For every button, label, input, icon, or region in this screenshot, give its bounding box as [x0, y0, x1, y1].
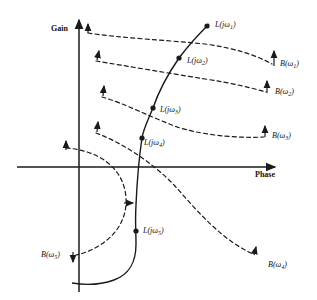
curve-b-omega-5 [66, 141, 133, 262]
label-L-omega-2: L(jω2) [187, 57, 208, 65]
curve-b-omega-4 [96, 122, 256, 255]
axis-label-phase: Phase [255, 171, 275, 179]
label-B-omega-5: B(ω5) [41, 251, 60, 259]
marker-L-omega-2 [176, 55, 181, 60]
marker-L-omega-5 [133, 228, 138, 233]
label-L-omega-4: L(jω4) [144, 139, 165, 147]
label-B-omega-3: B(ω3) [272, 132, 291, 140]
figure-canvas: Gain Phase L(jω1) L(jω2) L(jω3) L(jω4) L… [0, 0, 317, 300]
marker-L-omega-3 [150, 105, 155, 110]
label-L-omega-1: L(jω1) [215, 21, 236, 29]
label-B-omega-4: B(ω4) [268, 261, 287, 269]
curve-b-omega-1 [88, 24, 274, 66]
label-B-omega-1: B(ω1) [280, 60, 299, 68]
axis-label-gain: Gain [51, 25, 68, 33]
marker-L-omega-1 [204, 23, 209, 28]
label-L-omega-5: L(jω5) [143, 227, 164, 235]
curve-b-omega-3 [102, 86, 265, 137]
label-B-omega-2: B(ω2) [275, 88, 294, 96]
label-L-omega-3: L(jω3) [160, 106, 181, 114]
